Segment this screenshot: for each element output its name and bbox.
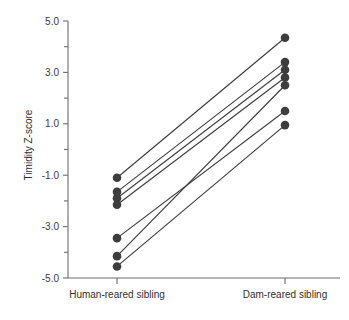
series-line [117, 70, 285, 199]
chart-canvas: 5.03.01.0-1.0-3.0-5.0 Human-reared sibli… [0, 0, 349, 320]
axis-lines [68, 21, 340, 278]
data-point [113, 200, 122, 209]
category-label-group: Human-reared siblingDam-reared sibling [69, 289, 327, 300]
y-axis-title: Timidity Z-score [23, 109, 34, 180]
y-tick-label: -5.0 [42, 273, 60, 284]
series-line [117, 125, 285, 266]
y-tick-label: 1.0 [45, 118, 59, 129]
y-tick-label: 3.0 [45, 67, 59, 78]
y-tick-label: -3.0 [42, 221, 60, 232]
y-tick-label: -1.0 [42, 170, 60, 181]
axes-group [63, 21, 340, 284]
x-category-label: Human-reared sibling [69, 289, 165, 300]
data-point [281, 58, 290, 67]
y-tick-label-group: 5.03.01.0-1.0-3.0-5.0 [42, 16, 60, 284]
timidity-z-score-chart: 5.03.01.0-1.0-3.0-5.0 Human-reared sibli… [0, 0, 349, 320]
data-point [281, 107, 290, 116]
series-lines-group [117, 38, 285, 267]
y-tick-label: 5.0 [45, 16, 59, 27]
data-point [281, 81, 290, 90]
data-point [113, 262, 122, 271]
series-line [117, 62, 285, 192]
y-axis-title-group: Timidity Z-score [23, 109, 34, 180]
data-point [113, 234, 122, 243]
data-point [281, 66, 290, 75]
data-point [113, 173, 122, 182]
data-point [281, 73, 290, 82]
series-line [117, 85, 285, 256]
data-point [281, 121, 290, 130]
data-point [281, 33, 290, 42]
series-line [117, 38, 285, 178]
data-point [113, 252, 122, 261]
series-line [117, 111, 285, 238]
data-points-group [113, 33, 290, 270]
x-category-label: Dam-reared sibling [243, 289, 327, 300]
series-line [117, 78, 285, 205]
